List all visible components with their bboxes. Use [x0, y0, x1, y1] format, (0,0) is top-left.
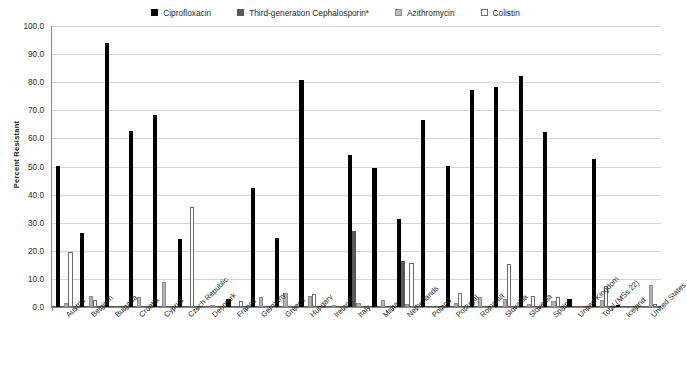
- x-axis-label-cell: Spain: [538, 310, 562, 377]
- x-axis-label-cell: Denmark: [197, 310, 221, 377]
- bar-group: [125, 26, 149, 307]
- x-axis-label-cell: United States: [636, 310, 660, 377]
- bar-group: [588, 26, 612, 307]
- square-filled-black-icon: [151, 9, 158, 16]
- bar: [56, 166, 60, 307]
- bar: [421, 120, 425, 307]
- x-axis-label-cell: Romania: [465, 310, 489, 377]
- bar-group: [198, 26, 222, 307]
- x-axis-label-cell: Total (MSs 22): [587, 310, 611, 377]
- bar: [210, 305, 214, 307]
- bar-group: [76, 26, 100, 307]
- x-axis-label-cell: Portugal: [441, 310, 465, 377]
- bar: [409, 263, 413, 307]
- y-axis-tick-label: 70.0: [10, 106, 44, 115]
- chart-legend: Ciprofloxacin Third-generation Cephalosp…: [0, 5, 671, 21]
- x-axis-label-cell: United Kingdom: [563, 310, 587, 377]
- bar-group: [271, 26, 295, 307]
- bar-group: [637, 26, 661, 307]
- legend-item-colistin: Colistin: [481, 9, 520, 17]
- x-axis-label-cell: Poland: [416, 310, 440, 377]
- y-axis-tick-label: 30.0: [10, 218, 44, 227]
- bar-group: [344, 26, 368, 307]
- x-axis-label-cell: Ireland: [319, 310, 343, 377]
- legend-label: Ciprofloxacin: [163, 9, 211, 17]
- y-axis-tick-label: 60.0: [10, 134, 44, 143]
- y-axis-tick-label: 20.0: [10, 246, 44, 255]
- bar-group: [564, 26, 588, 307]
- bar-group: [52, 26, 76, 307]
- y-axis-tick-label: 10.0: [10, 274, 44, 283]
- plot-area: [51, 26, 661, 308]
- bar: [372, 168, 376, 307]
- x-axis-label-cell: Malta: [368, 310, 392, 377]
- bar-group: [320, 26, 344, 307]
- bar-group: [417, 26, 441, 307]
- bar-group: [369, 26, 393, 307]
- bar-group: [490, 26, 514, 307]
- bar: [251, 188, 255, 307]
- bar: [592, 159, 596, 307]
- legend-item-azithromycin: Azithromycin: [395, 9, 455, 17]
- bar-group: [247, 26, 271, 307]
- y-axis-tick-label: 80.0: [10, 78, 44, 87]
- x-axis-label-cell: Croatia: [124, 310, 148, 377]
- x-axis-label-cell: Slovenia: [514, 310, 538, 377]
- x-axis-label-cell: Cyprus: [148, 310, 172, 377]
- bar: [356, 303, 360, 307]
- bar: [401, 261, 405, 307]
- bar-group: [393, 26, 417, 307]
- bar-groups: [52, 26, 661, 307]
- x-axis-label-cell: Hungary: [295, 310, 319, 377]
- bar-group: [174, 26, 198, 307]
- bar-group: [442, 26, 466, 307]
- x-axis-label-cell: Czech Republic: [173, 310, 197, 377]
- legend-label: Azithromycin: [407, 9, 455, 17]
- bar: [446, 166, 450, 307]
- bar: [68, 252, 72, 307]
- bar: [543, 132, 547, 307]
- bar-group: [515, 26, 539, 307]
- bar: [153, 115, 157, 307]
- x-axis-label-cell: Austria: [51, 310, 75, 377]
- y-axis-tick-label: 90.0: [10, 50, 44, 59]
- legend-item-third-generation-cephalosporin: Third-generation Cephalosporin*: [237, 9, 369, 17]
- bar-group: [149, 26, 173, 307]
- bar: [129, 131, 133, 307]
- square-outline-white-icon: [481, 9, 488, 16]
- legend-label: Colistin: [493, 9, 520, 17]
- bar: [162, 282, 166, 307]
- bar-group: [612, 26, 636, 307]
- bar: [494, 87, 498, 307]
- bar: [352, 231, 356, 307]
- x-axis-label-cell: Italy: [343, 310, 367, 377]
- bar: [259, 297, 263, 307]
- bar-group: [466, 26, 490, 307]
- x-axis-label-cell: Netherlands: [392, 310, 416, 377]
- bar: [507, 264, 511, 307]
- y-axis-tick-label: 0.0: [10, 303, 44, 312]
- bar: [190, 207, 194, 307]
- x-axis-label-cell: Belgium: [75, 310, 99, 377]
- square-filled-lightgray-icon: [395, 9, 402, 16]
- x-axis-label-cell: Slovakia: [489, 310, 513, 377]
- bar: [470, 90, 474, 307]
- legend-item-ciprofloxacin: Ciprofloxacin: [151, 9, 211, 17]
- y-axis-tick-label: 50.0: [10, 162, 44, 171]
- x-axis-labels: AustriaBelgiumBulgariaCroatiaCyprusCzech…: [51, 310, 660, 377]
- bar: [519, 76, 523, 307]
- legend-label: Third-generation Cephalosporin*: [249, 9, 369, 17]
- x-axis-label-cell: Greece: [270, 310, 294, 377]
- bar-group: [296, 26, 320, 307]
- y-axis-tick-label: 40.0: [10, 190, 44, 199]
- y-axis-ticks: 0.010.020.030.040.050.060.070.080.090.01…: [10, 0, 44, 377]
- y-axis-tick-label: 100.0: [10, 22, 44, 31]
- square-filled-darkgray-icon: [237, 9, 244, 16]
- bar: [332, 305, 336, 307]
- bar: [299, 80, 303, 307]
- bar: [105, 43, 109, 307]
- bar-group: [539, 26, 563, 307]
- x-axis-label-cell: France: [222, 310, 246, 377]
- bar-group: [101, 26, 125, 307]
